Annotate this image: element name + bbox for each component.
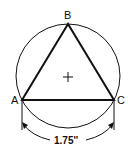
dimension-arc-right	[86, 124, 113, 140]
diagram-canvas: B A C 1.75''	[0, 0, 131, 149]
center-mark	[63, 72, 73, 82]
vertex-label-b: B	[64, 9, 71, 21]
vertex-label-c: C	[117, 94, 125, 106]
vertex-label-a: A	[11, 94, 19, 106]
dimension-arc-left	[23, 124, 50, 140]
dimension-label: 1.75''	[54, 135, 78, 146]
